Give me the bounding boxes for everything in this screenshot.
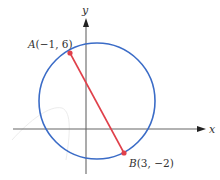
diagram-canvas: x y A(−1, 6) B(3, −2) bbox=[0, 0, 220, 180]
point-a-label: A(−1, 6) bbox=[27, 38, 73, 50]
x-axis-arrow-icon bbox=[197, 126, 206, 132]
point-b-label: B(3, −2) bbox=[128, 157, 174, 169]
x-axis-label: x bbox=[209, 123, 216, 136]
y-axis bbox=[83, 18, 89, 174]
point-b-letter: B bbox=[128, 157, 137, 169]
point-a bbox=[67, 50, 72, 55]
circle bbox=[39, 43, 155, 159]
diameter-segment-ab bbox=[70, 53, 124, 153]
coordinate-plane: x y A(−1, 6) B(3, −2) bbox=[0, 0, 220, 180]
point-b bbox=[121, 150, 126, 155]
y-axis-arrow-icon bbox=[83, 18, 89, 27]
point-a-coords: (−1, 6) bbox=[36, 38, 73, 50]
point-b-coords: (3, −2) bbox=[137, 157, 174, 169]
y-axis-label: y bbox=[81, 4, 89, 17]
